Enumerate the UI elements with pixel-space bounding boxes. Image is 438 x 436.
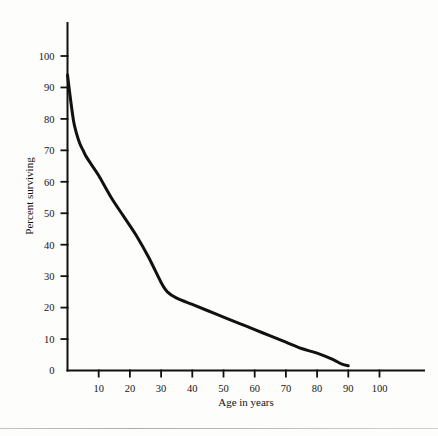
y-axis-title: Percent surviving: [23, 157, 35, 235]
x-tick-label: 100: [372, 383, 388, 394]
x-axis-title: Age in years: [218, 396, 274, 408]
page-edge-line: [0, 428, 438, 429]
x-tick-label: 40: [187, 383, 198, 394]
y-tick-label: 0: [49, 365, 54, 376]
y-tick-label: 40: [44, 240, 55, 251]
x-tick-label: 80: [312, 383, 323, 394]
y-axis-tick-labels: 0102030405060708090100: [39, 51, 55, 377]
x-tick-label: 30: [156, 383, 167, 394]
survival-curve-line: [68, 75, 349, 366]
y-tick-label: 20: [44, 302, 55, 313]
chart-canvas: 0102030405060708090100 10203040506070809…: [0, 0, 438, 436]
survivorship-chart: 0102030405060708090100 10203040506070809…: [0, 0, 438, 436]
y-tick-label: 100: [39, 51, 55, 62]
y-axis: 0102030405060708090100: [39, 22, 69, 376]
x-axis-tick-labels: 102030405060708090100: [93, 383, 387, 394]
y-tick-label: 60: [44, 177, 55, 188]
x-axis: 102030405060708090100: [67, 370, 426, 394]
y-tick-label: 70: [44, 145, 55, 156]
x-tick-label: 50: [218, 383, 229, 394]
y-tick-label: 90: [44, 82, 55, 93]
y-tick-label: 50: [44, 208, 55, 219]
y-tick-label: 80: [44, 114, 55, 125]
x-tick-label: 60: [249, 383, 260, 394]
x-tick-label: 70: [281, 383, 292, 394]
x-tick-label: 90: [343, 383, 354, 394]
y-tick-label: 30: [44, 271, 55, 282]
x-tick-label: 10: [93, 383, 104, 394]
y-tick-label: 10: [44, 334, 55, 345]
x-tick-label: 20: [125, 383, 136, 394]
